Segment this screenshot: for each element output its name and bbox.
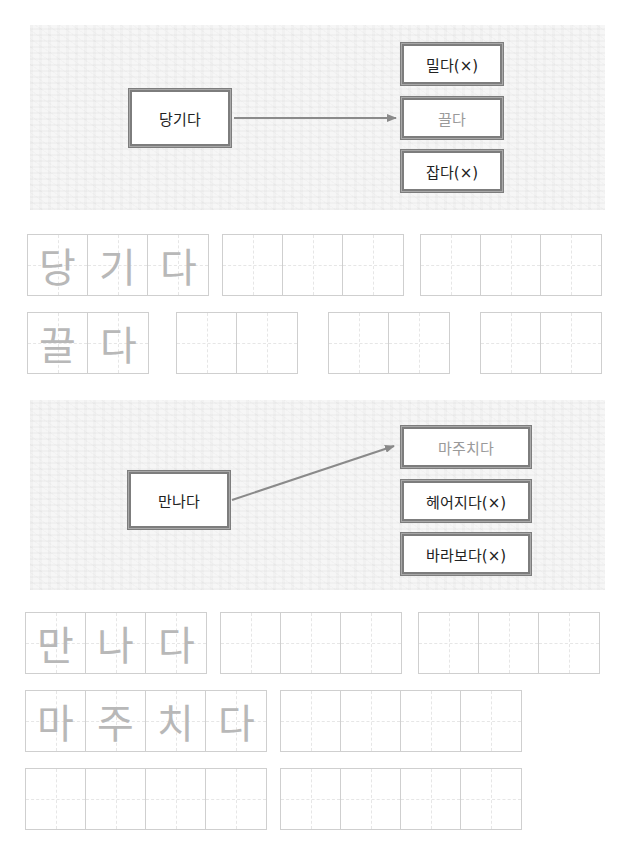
writing-cell[interactable] xyxy=(281,691,341,751)
source-word-2: 만나다 xyxy=(158,490,200,511)
guide-character: 당 xyxy=(39,236,76,294)
option-label: 밀다(×) xyxy=(426,54,478,75)
writing-cell[interactable] xyxy=(401,769,461,829)
guide-character: 끌 xyxy=(39,314,76,372)
option-box-1-2[interactable]: 끌다 xyxy=(400,96,504,140)
writing-cell[interactable] xyxy=(86,769,146,829)
writing-cell[interactable] xyxy=(541,235,601,295)
option-box-2-3[interactable]: 바라보다(×) xyxy=(400,532,532,576)
writing-cell[interactable] xyxy=(281,769,341,829)
writing-cell[interactable] xyxy=(223,235,283,295)
writing-cell[interactable] xyxy=(283,235,343,295)
writing-cell[interactable]: 나 xyxy=(86,613,146,673)
writing-cell[interactable] xyxy=(341,691,401,751)
writing-cell[interactable] xyxy=(329,313,389,373)
writing-grid-group[interactable] xyxy=(328,312,450,374)
writing-grid-group[interactable] xyxy=(220,612,402,674)
option-box-2-2[interactable]: 헤어지다(×) xyxy=(400,479,532,523)
writing-cell[interactable]: 당 xyxy=(28,235,88,295)
writing-cell[interactable]: 마 xyxy=(26,691,86,751)
writing-grid-group[interactable] xyxy=(418,612,600,674)
source-word-1: 당기다 xyxy=(159,108,201,129)
writing-cell[interactable]: 다 xyxy=(146,613,206,673)
writing-cell[interactable] xyxy=(419,613,479,673)
writing-cell[interactable]: 다 xyxy=(206,691,266,751)
writing-cell[interactable] xyxy=(177,313,237,373)
writing-cell[interactable] xyxy=(541,313,601,373)
writing-grid-group[interactable] xyxy=(280,690,522,752)
option-label: 마주치다 xyxy=(438,437,494,458)
writing-cell[interactable]: 다 xyxy=(88,313,148,373)
writing-grid-group[interactable]: 당기다 xyxy=(27,234,209,296)
writing-cell[interactable] xyxy=(206,769,266,829)
writing-cell[interactable] xyxy=(389,313,449,373)
writing-cell[interactable] xyxy=(461,691,521,751)
source-word-box-1: 당기다 xyxy=(128,88,232,148)
source-word-box-2: 만나다 xyxy=(127,470,231,530)
writing-grid-group[interactable] xyxy=(420,234,602,296)
option-label: 바라보다(×) xyxy=(426,544,506,565)
writing-cell[interactable] xyxy=(237,313,297,373)
writing-grid-group[interactable]: 끌다 xyxy=(27,312,149,374)
writing-grid-group[interactable] xyxy=(25,768,267,830)
option-label: 끌다 xyxy=(438,108,466,129)
writing-cell[interactable] xyxy=(461,769,521,829)
writing-cell[interactable] xyxy=(341,769,401,829)
guide-character: 기 xyxy=(99,236,136,294)
writing-cell[interactable]: 주 xyxy=(86,691,146,751)
writing-cell[interactable] xyxy=(401,691,461,751)
writing-cell[interactable] xyxy=(341,613,401,673)
writing-cell[interactable]: 만 xyxy=(26,613,86,673)
writing-cell[interactable] xyxy=(481,313,541,373)
option-label: 헤어지다(×) xyxy=(426,491,506,512)
writing-cell[interactable]: 다 xyxy=(148,235,208,295)
writing-grid-group[interactable] xyxy=(176,312,298,374)
guide-character: 주 xyxy=(97,692,134,750)
writing-grid-group[interactable] xyxy=(480,312,602,374)
writing-cell[interactable] xyxy=(146,769,206,829)
option-box-1-1[interactable]: 밀다(×) xyxy=(400,42,504,86)
guide-character: 만 xyxy=(37,614,74,672)
guide-character: 나 xyxy=(97,614,134,672)
writing-cell[interactable] xyxy=(221,613,281,673)
writing-cell[interactable]: 치 xyxy=(146,691,206,751)
guide-character: 다 xyxy=(218,692,255,750)
writing-grid-group[interactable]: 마주치다 xyxy=(25,690,267,752)
guide-character: 다 xyxy=(158,614,195,672)
guide-character: 다 xyxy=(100,314,137,372)
writing-cell[interactable] xyxy=(343,235,403,295)
writing-cell[interactable]: 끌 xyxy=(28,313,88,373)
diagram-panel-1 xyxy=(30,25,605,210)
writing-grid-group[interactable]: 만나다 xyxy=(25,612,207,674)
guide-character: 마 xyxy=(37,692,74,750)
writing-grid-group[interactable] xyxy=(222,234,404,296)
writing-grid-group[interactable] xyxy=(280,768,522,830)
writing-cell[interactable] xyxy=(539,613,599,673)
writing-cell[interactable]: 기 xyxy=(88,235,148,295)
guide-character: 치 xyxy=(157,692,194,750)
option-box-1-3[interactable]: 잡다(×) xyxy=(400,149,504,193)
option-label: 잡다(×) xyxy=(426,161,478,182)
option-box-2-1[interactable]: 마주치다 xyxy=(400,425,532,469)
guide-character: 다 xyxy=(160,236,197,294)
writing-cell[interactable] xyxy=(26,769,86,829)
writing-cell[interactable] xyxy=(421,235,481,295)
writing-cell[interactable] xyxy=(479,613,539,673)
writing-cell[interactable] xyxy=(481,235,541,295)
writing-cell[interactable] xyxy=(281,613,341,673)
